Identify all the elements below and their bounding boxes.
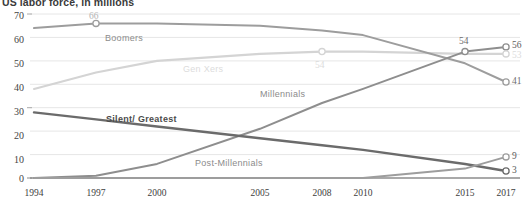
data-point-boomers-2017 xyxy=(503,79,509,85)
point-label-millennials-2015: 54 xyxy=(459,36,469,46)
series-line-gen-xers xyxy=(34,52,506,89)
gridlines xyxy=(30,14,520,155)
series-label-silent-greatest: Silent/ Greatest xyxy=(106,114,177,124)
point-label-genx-end: 53 xyxy=(512,50,522,60)
series-line-millennials xyxy=(34,47,506,178)
data-point-silent-2017 xyxy=(503,168,509,174)
point-label-silent-end: 3 xyxy=(512,165,517,175)
point-label-millennials-end: 56 xyxy=(512,40,522,50)
point-label-boomers-end: 41 xyxy=(512,76,522,86)
series-label-boomers: Boomers xyxy=(105,33,143,43)
chart-figure: US labor force, in millions 70 60 50 40 … xyxy=(0,0,525,211)
series-line-silent-greatest xyxy=(34,112,506,171)
data-point-postmill-2017 xyxy=(503,154,509,160)
point-label-genx-peak: 54 xyxy=(315,60,325,70)
data-point-millennials-2015 xyxy=(462,49,468,55)
data-point-genx-2017 xyxy=(503,51,509,57)
series-label-millennials: Millennials xyxy=(260,89,305,99)
data-point-genx-2008 xyxy=(319,49,325,55)
data-point-boomers-1997 xyxy=(93,20,99,26)
point-label-postmill-end: 9 xyxy=(512,151,517,161)
y-axis-ticks xyxy=(27,14,32,178)
plot-area xyxy=(0,0,525,211)
series-label-post-millennials: Post-Millennials xyxy=(195,158,263,168)
data-point-millennials-2017 xyxy=(503,44,509,50)
point-label-boomers-peak: 66 xyxy=(89,11,99,21)
series-label-gen-xers: Gen Xers xyxy=(183,64,223,74)
